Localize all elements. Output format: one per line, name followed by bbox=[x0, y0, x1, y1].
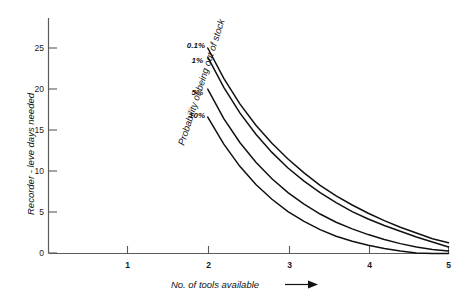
curve-label-0p1pct: 0.1% bbox=[187, 41, 205, 50]
y-tick-label-0: 0 bbox=[39, 248, 44, 258]
x-axis-tick-labels: 1 2 3 4 5 bbox=[125, 260, 451, 270]
y-tick-label-25: 25 bbox=[35, 43, 45, 53]
curve-10pct bbox=[208, 117, 449, 253]
y-tick-label-20: 20 bbox=[35, 84, 45, 94]
line-chart-svg: 25 20 15 10 5 0 1 2 3 4 5 0.1% 1% bbox=[0, 0, 465, 297]
x-tick-label-1: 1 bbox=[125, 260, 130, 270]
y-tick-label-5: 5 bbox=[39, 207, 44, 217]
x-tick-label-5: 5 bbox=[446, 260, 451, 270]
x-axis-title: No. of tools available bbox=[171, 279, 259, 290]
y-axis-ticks bbox=[49, 48, 58, 253]
x-tick-label-4: 4 bbox=[367, 260, 372, 270]
probability-axis-label: Probability of being out of stock bbox=[175, 16, 227, 146]
x-tick-label-3: 3 bbox=[287, 260, 292, 270]
data-curves bbox=[208, 48, 449, 254]
x-tick-label-2: 2 bbox=[206, 260, 211, 270]
x-axis-ticks bbox=[128, 246, 449, 254]
curve-01pct bbox=[208, 48, 449, 243]
arrow-right-icon bbox=[285, 281, 318, 289]
y-axis-title: Recorder - leve days needed bbox=[25, 92, 36, 215]
chart-container: 25 20 15 10 5 0 1 2 3 4 5 0.1% 1% bbox=[0, 0, 465, 297]
